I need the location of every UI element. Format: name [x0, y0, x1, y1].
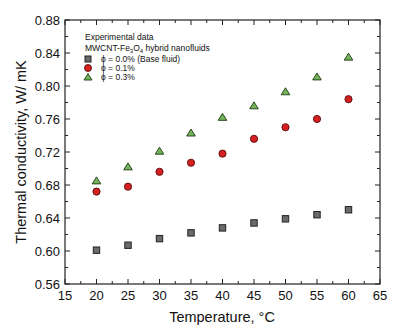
x-tick-label: 55: [310, 288, 324, 303]
square-marker-icon: [314, 212, 320, 218]
legend-item-0-3-percent: ϕ = 0.3%: [84, 72, 135, 82]
legend-subtitle: MWCNT-Fe3O4 hybrid nanofluids: [85, 43, 210, 54]
triangle-marker-icon: [92, 177, 101, 184]
circle-marker-icon: [124, 183, 131, 190]
triangle-marker-icon: [344, 53, 353, 60]
square-marker-icon: [219, 225, 225, 231]
x-tick-label: 65: [373, 288, 387, 303]
triangle-marker-icon: [124, 163, 133, 170]
y-tick-label: 0.84: [35, 46, 60, 61]
square-marker-icon: [85, 56, 91, 62]
x-tick-label: 40: [215, 288, 229, 303]
y-tick-label: 0.72: [35, 145, 60, 160]
y-axis-title: Thermal conductivity, W/ mK: [13, 60, 29, 244]
circle-marker-icon: [187, 159, 194, 166]
y-tick-labels: 0.560.600.640.680.720.760.800.840.88: [35, 13, 60, 292]
circle-marker-icon: [250, 135, 257, 142]
triangle-marker-icon: [155, 147, 164, 154]
circle-marker-icon: [93, 188, 100, 195]
triangle-marker-icon: [281, 88, 290, 95]
y-tick-label: 0.64: [35, 211, 60, 226]
legend: Experimental data MWCNT-Fe3O4 hybrid nan…: [84, 32, 210, 82]
x-axis-title: Temperature, °C: [169, 309, 275, 325]
circle-marker-icon: [156, 168, 163, 175]
triangle-marker-icon: [187, 129, 196, 136]
y-tick-label: 0.56: [35, 277, 60, 292]
x-tick-label: 20: [89, 288, 103, 303]
circle-marker-icon: [345, 96, 352, 103]
x-tick-labels: 1520253035404550556065: [58, 288, 387, 303]
x-tick-label: 50: [278, 288, 292, 303]
triangle-marker-icon: [84, 74, 92, 81]
y-tick-label: 0.76: [35, 112, 60, 127]
triangle-marker-icon: [218, 113, 227, 120]
triangle-marker-icon: [313, 73, 322, 80]
square-marker-icon: [188, 230, 194, 236]
y-tick-label: 0.80: [35, 79, 60, 94]
circle-marker-icon: [219, 150, 226, 157]
circle-marker-icon: [282, 124, 289, 131]
y-tick-label: 0.60: [35, 244, 60, 259]
square-marker-icon: [282, 216, 288, 222]
square-marker-icon: [156, 235, 162, 241]
circle-marker-icon: [85, 65, 92, 72]
square-marker-icon: [93, 247, 99, 253]
legend-label: ϕ = 0.3%: [101, 72, 135, 82]
triangle-marker-icon: [250, 102, 259, 109]
x-tick-label: 30: [152, 288, 166, 303]
legend-title: Experimental data: [85, 32, 154, 42]
series-0: [93, 207, 351, 254]
y-tick-label: 0.88: [35, 13, 60, 28]
scatter-chart: 1520253035404550556065 0.560.600.640.680…: [0, 0, 403, 335]
data-points: [92, 53, 353, 253]
circle-marker-icon: [313, 115, 320, 122]
x-tick-label: 60: [341, 288, 355, 303]
square-marker-icon: [251, 220, 257, 226]
x-tick-label: 45: [247, 288, 261, 303]
series-1: [93, 96, 352, 196]
square-marker-icon: [125, 242, 131, 248]
x-tick-label: 35: [184, 288, 198, 303]
x-tick-label: 25: [121, 288, 135, 303]
y-tick-label: 0.68: [35, 178, 60, 193]
square-marker-icon: [345, 207, 351, 213]
